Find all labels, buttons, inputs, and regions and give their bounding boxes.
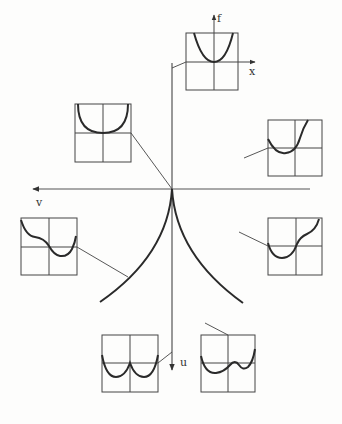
inset-x-axis-label: x bbox=[249, 66, 255, 77]
v-axis-label: v bbox=[36, 197, 42, 208]
inset-lower-right bbox=[268, 218, 322, 275]
inset-upper-left bbox=[75, 104, 131, 162]
inset-f-axis-label: f bbox=[217, 13, 221, 24]
inset-left bbox=[21, 218, 77, 275]
inset-bottom-right bbox=[201, 335, 255, 392]
inset-upper-right bbox=[268, 120, 322, 176]
cusp-left-branch bbox=[100, 189, 172, 302]
inset-top bbox=[186, 15, 255, 90]
cusp-catastrophe-diagram: f x v u bbox=[0, 0, 342, 424]
cusp-right-branch bbox=[172, 189, 243, 303]
u-axis-label: u bbox=[180, 357, 187, 368]
inset-bottom-left bbox=[102, 335, 158, 392]
diagram-canvas bbox=[0, 0, 342, 424]
